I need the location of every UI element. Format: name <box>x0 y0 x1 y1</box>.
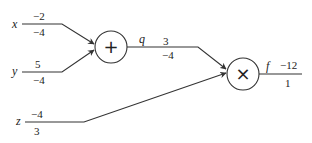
input-z-value: −4 <box>31 108 43 120</box>
intermediate-q-value: 3 <box>163 35 169 47</box>
multiply-node: × <box>227 58 259 90</box>
intermediate-q-name: q <box>139 32 145 46</box>
input-x-value: −2 <box>33 10 45 22</box>
intermediate-q: q 3 −4 <box>127 32 226 69</box>
edge-add-to-mul <box>127 47 226 69</box>
input-x-gradient: −4 <box>33 26 45 38</box>
input-z: z −4 3 <box>15 73 226 137</box>
input-x-name: x <box>11 17 18 31</box>
add-node: + <box>95 31 127 63</box>
input-z-name: z <box>15 114 21 128</box>
input-y-name: y <box>11 64 18 78</box>
edge-z-to-mul <box>25 73 226 122</box>
edge-y-to-add <box>22 50 94 72</box>
input-x: x −2 −4 <box>11 10 94 44</box>
computational-graph: x −2 −4 y 5 −4 + q 3 −4 z −4 3 × f −12 1 <box>0 0 312 143</box>
input-y: y 5 −4 <box>11 50 94 86</box>
input-y-value: 5 <box>35 58 41 70</box>
plus-icon: + <box>103 36 118 57</box>
output-f-value: −12 <box>280 59 297 71</box>
intermediate-q-gradient: −4 <box>162 49 174 61</box>
output-f: f −12 1 <box>259 59 302 89</box>
input-z-gradient: 3 <box>34 125 40 137</box>
input-y-gradient: −4 <box>33 74 45 86</box>
multiply-icon: × <box>235 63 250 84</box>
output-f-name: f <box>266 59 271 73</box>
output-f-gradient: 1 <box>285 77 291 89</box>
